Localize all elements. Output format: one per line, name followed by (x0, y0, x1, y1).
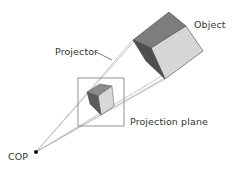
object-label: Object (194, 19, 226, 30)
projector-label: Projector (55, 46, 98, 57)
perspective-projection-diagram: Object Projector Projection plane COP (0, 0, 233, 173)
cop-point (34, 150, 38, 154)
cop-label: COP (8, 151, 28, 162)
object-cube (133, 12, 203, 79)
projection-plane-label: Projection plane (130, 116, 208, 127)
projector-leader-line (96, 52, 112, 60)
